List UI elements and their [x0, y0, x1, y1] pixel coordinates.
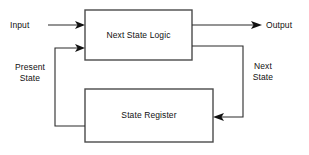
signal-label-next-state-line2: State — [246, 72, 280, 83]
diagram-canvas: Next State Logic State Register Input Ou… — [0, 0, 309, 155]
signal-label-present-state-line1: Present — [9, 62, 51, 73]
signal-label-present-state: Present State — [9, 62, 51, 83]
signal-label-input: Input — [10, 20, 29, 30]
block-label-state-register: State Register — [85, 110, 213, 120]
signal-label-present-state-line2: State — [9, 73, 51, 84]
signal-label-next-state-line1: Next — [246, 61, 280, 72]
signal-label-next-state: Next State — [246, 61, 280, 82]
wire-present-state — [55, 48, 85, 126]
signal-label-output: Output — [266, 20, 292, 30]
block-label-next-state-logic: Next State Logic — [85, 30, 192, 40]
